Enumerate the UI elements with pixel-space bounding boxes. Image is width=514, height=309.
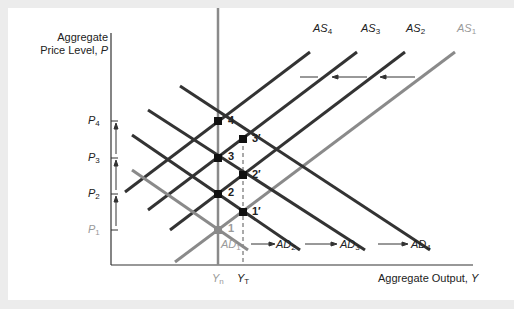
- as2-label: AS2: [406, 22, 425, 36]
- as3-label: AS3: [361, 22, 380, 36]
- point-1-prime: [239, 208, 247, 216]
- yt-label: YT: [237, 272, 249, 286]
- p4-label: P4: [88, 114, 100, 128]
- yn-label: Yn: [212, 272, 224, 286]
- point-2-prime: [239, 171, 247, 179]
- p2-label: P2: [88, 187, 100, 201]
- p1-label: P1: [88, 223, 100, 237]
- ad3-label: AD3: [340, 238, 360, 252]
- point-1-prime-label: 1′: [252, 205, 261, 217]
- ad3-curve: [148, 110, 365, 250]
- x-axis-label: Aggregate Output, Y: [378, 272, 478, 284]
- point-2: [214, 190, 222, 198]
- as-shift-arrows: [300, 75, 415, 79]
- point-3-label: 3: [228, 150, 234, 162]
- point-1-label: 1: [228, 222, 234, 234]
- point-4-label: 4: [228, 114, 234, 126]
- ad1-label: AD1: [221, 238, 241, 252]
- ad-shift-arrows: [251, 242, 408, 246]
- point-1: [214, 226, 222, 234]
- as1-label: AS1: [457, 22, 476, 36]
- ad4-label: AD4: [411, 238, 431, 252]
- price-ticks: [111, 121, 118, 230]
- point-2-label: 2: [228, 186, 234, 198]
- point-2-prime-label: 2′: [252, 168, 261, 180]
- ad2-label: AD2: [276, 238, 296, 252]
- point-3: [214, 154, 222, 162]
- point-3-prime: [239, 135, 247, 143]
- as4-label: AS4: [313, 22, 332, 36]
- y-axis-label: Aggregate Price Level, P: [20, 31, 108, 57]
- point-3-prime-label: 3′: [252, 132, 261, 144]
- p3-label: P3: [88, 151, 100, 165]
- as2-curve: [170, 52, 405, 230]
- price-arrows: [114, 123, 118, 226]
- point-4: [214, 117, 222, 125]
